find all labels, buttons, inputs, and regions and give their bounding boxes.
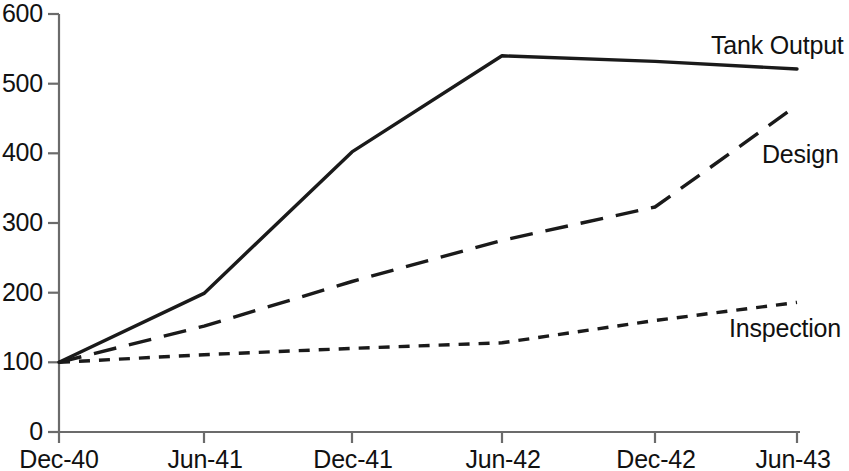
y-axis-ticks — [48, 14, 59, 432]
x-axis-ticks — [59, 432, 797, 443]
x-tick-label-jun-42: Jun-42 — [439, 447, 567, 471]
y-tick-label-500: 500 — [0, 71, 43, 96]
y-tick-label-300: 300 — [0, 210, 43, 235]
x-tick-label-jun-41: Jun-41 — [141, 447, 269, 471]
x-tick-label-dec-42: Dec-42 — [592, 447, 720, 471]
series-label-inspection: Inspection — [729, 316, 841, 341]
x-tick-label-dec-40: Dec-40 — [0, 447, 123, 471]
y-tick-label-200: 200 — [0, 280, 43, 305]
series-label-design: Design — [762, 142, 839, 167]
series-label-tank-output: Tank Output — [711, 33, 844, 58]
x-tick-label-jun-43: Jun-43 — [729, 447, 849, 471]
x-tick-label-dec-41: Dec-41 — [289, 447, 417, 471]
y-tick-label-100: 100 — [0, 349, 43, 374]
y-tick-label-0: 0 — [0, 419, 43, 444]
y-tick-label-400: 400 — [0, 140, 43, 165]
series-line-design — [59, 105, 797, 362]
y-tick-label-600: 600 — [0, 1, 43, 26]
